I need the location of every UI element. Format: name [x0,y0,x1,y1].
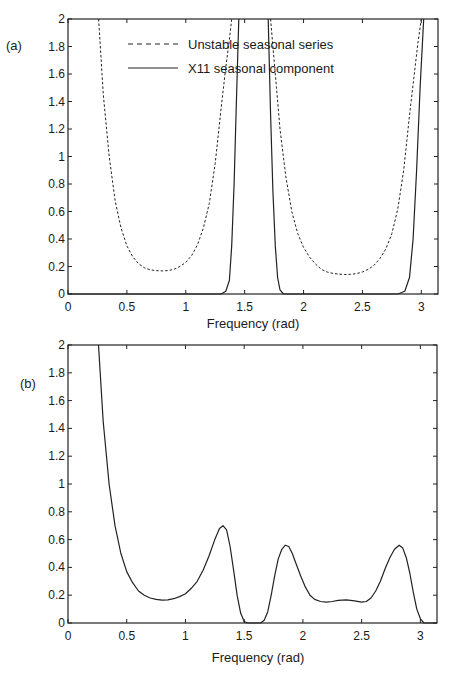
panel-a-x-tick-label: 3 [418,300,425,314]
panel-b-x-tick-label: 1.5 [236,629,253,643]
panel-a-y-tick-label: 1.4 [48,95,65,109]
panel-a-x-tick-label: 1 [182,300,189,314]
panel-b-y-tick-label: 0.6 [48,533,65,547]
panel-b-frame [68,345,437,623]
panel-b-x-tick-label: 1 [182,629,189,643]
panel-b-x-tick-label: 3 [417,629,424,643]
panel-b-y-tick-label: 1.2 [48,449,65,463]
panel-a-label: (a) [6,38,22,53]
panel-b-curves [99,345,437,623]
panel-a: (a) 00.511.522.5300.20.40.60.811.21.41.6… [6,12,438,331]
panel-a-y-tick-label: 1.2 [48,122,65,136]
panel-a-y-tick-label: 1.6 [48,67,65,81]
legend-label-x11: X11 seasonal component [188,61,334,76]
panel-b-y-tick-label: 1.8 [48,366,65,380]
panel-a-series-unstable-seasonal-segment [99,19,232,271]
panel-b-y-tick-label: 0.8 [48,505,65,519]
panel-a-x-tick-label: 0 [65,300,72,314]
panel-a-y-tick-label: 1 [58,150,65,164]
panel-a-x-axis-title: Frequency (rad) [207,316,299,331]
panel-a-y-tick-label: 0.8 [48,177,65,191]
panel-b-x-tick-label: 2.5 [353,629,370,643]
panel-b-y-tick-label: 1.6 [48,394,65,408]
panel-a-series-unstable-seasonal-segment [271,19,422,275]
panel-a-x-tick-label: 2 [300,300,307,314]
panel-a-y-tick-label: 0.4 [48,232,65,246]
panel-b-ticks: 00.511.522.5300.20.40.60.811.21.41.61.82 [48,338,437,643]
panel-a-x-tick-label: 0.5 [119,300,136,314]
panel-a-ticks: 00.511.522.5300.20.40.60.811.21.41.61.82 [48,12,438,314]
legend-label-unstable: Unstable seasonal series [188,37,334,52]
panel-b-series-curve-segment [99,345,437,623]
panel-b-y-tick-label: 0.2 [48,588,65,602]
panel-b-y-tick-label: 2 [58,338,65,352]
panel-b: (b) 00.511.522.5300.20.40.60.811.21.41.6… [20,338,437,665]
panel-b-y-tick-label: 0.4 [48,560,65,574]
panel-a-x-tick-label: 2.5 [354,300,371,314]
panel-b-x-tick-label: 0 [65,629,72,643]
panel-a-y-tick-label: 0 [58,287,65,301]
panel-b-y-tick-label: 1 [58,477,65,491]
panel-b-y-tick-label: 1.4 [48,421,65,435]
panel-a-x-tick-label: 1.5 [236,300,253,314]
panel-b-x-tick-label: 0.5 [118,629,135,643]
panel-a-y-tick-label: 1.8 [48,40,65,54]
panel-a-y-tick-label: 0.6 [48,205,65,219]
legend: Unstable seasonal series X11 seasonal co… [128,37,334,76]
panel-b-y-tick-label: 0 [58,616,65,630]
panel-a-y-tick-label: 2 [58,12,65,26]
panel-b-label: (b) [20,376,36,391]
figure: (a) 00.511.522.5300.20.40.60.811.21.41.6… [0,0,454,674]
panel-a-y-tick-label: 0.2 [48,260,65,274]
panel-b-x-tick-label: 2 [300,629,307,643]
panel-b-x-axis-title: Frequency (rad) [212,650,304,665]
